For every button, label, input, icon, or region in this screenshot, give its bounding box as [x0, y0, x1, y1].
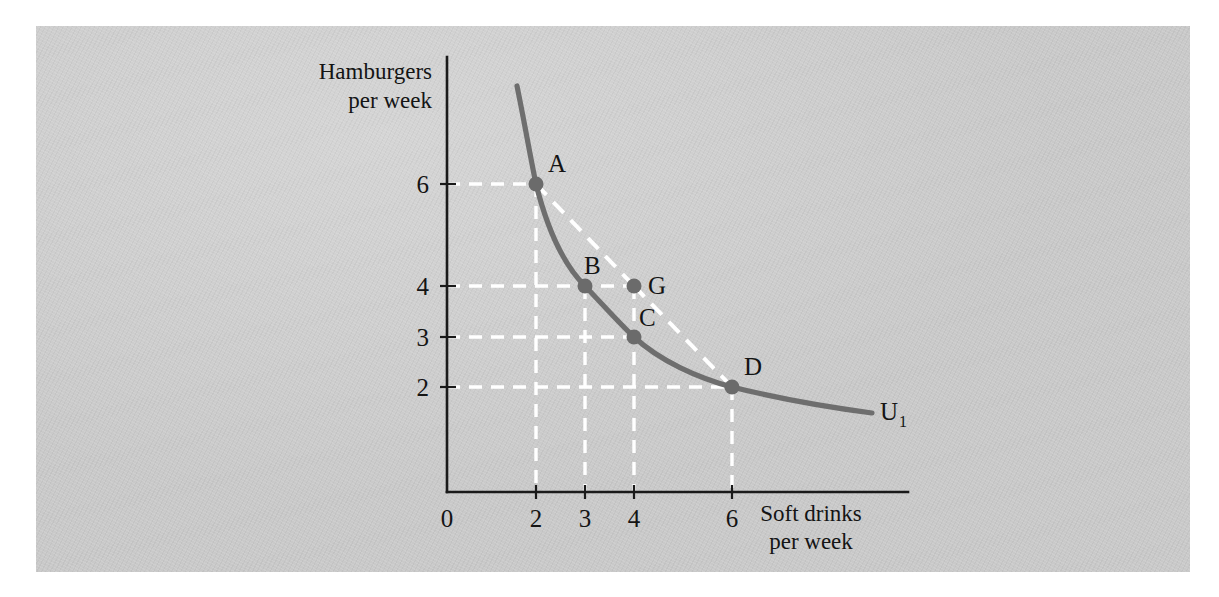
- point-label-d: D: [744, 353, 762, 380]
- x-tick-label-0: 0: [441, 505, 454, 532]
- point-label-c: C: [639, 304, 656, 331]
- point-g-dot: [627, 279, 642, 294]
- point-d-dot: [725, 380, 740, 395]
- point-c-dot: [627, 330, 642, 345]
- point-label-b: B: [584, 252, 601, 279]
- point-label-a: A: [548, 150, 566, 177]
- x-tick-label-2: 2: [530, 505, 543, 532]
- curve-label-u1-subscript: 1: [899, 413, 907, 430]
- x-tick-label-4: 4: [628, 505, 641, 532]
- x-tick-label-3: 3: [579, 505, 592, 532]
- y-axis-title-line2: per week: [348, 88, 432, 113]
- point-a-dot: [529, 177, 544, 192]
- x-axis-title: Soft drinks per week: [760, 501, 862, 554]
- indifference-curve-plot: 6 4 3 2 0 2 3 4 6 A B G C D: [0, 0, 1219, 597]
- x-tick-labels: 0 2 3 4 6: [441, 505, 739, 532]
- y-tick-label-3: 3: [417, 324, 430, 351]
- x-axis-title-line2: per week: [769, 529, 853, 554]
- guide-lines-group: [447, 184, 732, 492]
- y-axis-title-line1: Hamburgers: [319, 59, 432, 84]
- y-tick-label-4: 4: [417, 273, 430, 300]
- y-tick-label-6: 6: [417, 171, 430, 198]
- figure-root: 6 4 3 2 0 2 3 4 6 A B G C D: [0, 0, 1219, 597]
- point-label-g: G: [648, 272, 666, 299]
- y-axis-title: Hamburgers per week: [319, 59, 433, 113]
- curve-label-group: U 1: [880, 398, 907, 430]
- axes-group: [440, 57, 908, 499]
- curve-label-u1: U: [880, 398, 898, 425]
- y-tick-labels: 6 4 3 2: [417, 171, 430, 401]
- point-labels-group: A B G C D: [548, 150, 762, 380]
- point-b-dot: [578, 279, 593, 294]
- x-axis-title-line1: Soft drinks: [760, 501, 862, 526]
- indifference-curve-u1: [517, 86, 872, 413]
- y-tick-label-2: 2: [417, 374, 430, 401]
- x-tick-label-6: 6: [726, 505, 739, 532]
